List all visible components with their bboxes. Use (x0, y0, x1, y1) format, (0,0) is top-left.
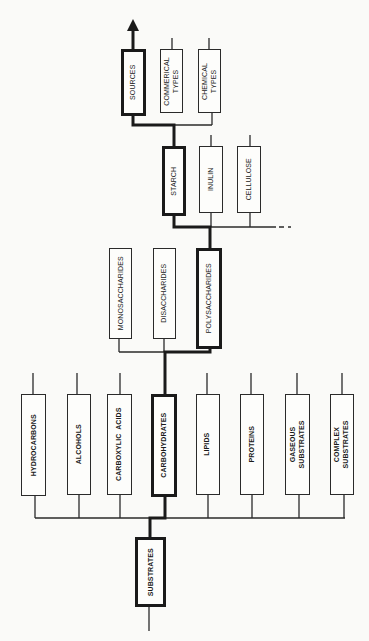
node-label: COMMERICAL TYPES (163, 57, 180, 105)
node-alcohols: ALCOHOLS (67, 394, 91, 495)
node-label: MONOSACCHARIDES (116, 257, 125, 331)
node-label: GASEOUS SUBSTRATES (289, 421, 306, 469)
node-substrates: SUBSTRATES (135, 537, 166, 607)
node-label: STARCH (170, 167, 179, 196)
node-disaccharides: DISACCHARIDES (153, 248, 176, 339)
node-label: HYDROCARBONS (29, 414, 38, 476)
node-sources: SOURCES (121, 49, 146, 116)
node-cellulose: CELLULOSE (237, 146, 261, 213)
node-lipids: LIPIDS (196, 394, 220, 495)
node-label: CARBOHYDRATES (160, 413, 169, 478)
node-label: CELLULOSE (245, 158, 254, 200)
arrow-up-icon (127, 19, 139, 31)
node-label: DISACCHARIDES (160, 264, 169, 323)
node-label: COMPLEX SUBSTRATES (334, 421, 351, 469)
node-proteins: PROTEINS (240, 394, 264, 495)
node-label: POLYSACCHARIDES (205, 263, 214, 333)
node-label: SUBSTRATES (146, 548, 155, 596)
node-label: PROTEINS (248, 426, 257, 463)
node-label: CHEMICAL TYPES (201, 63, 218, 100)
node-carboxylic-acids: CARBOXYLIC ACIDS (107, 394, 132, 495)
node-complex-substrates: COMPLEX SUBSTRATES (330, 394, 354, 495)
node-label: SOURCES (129, 65, 138, 100)
node-starch: STARCH (162, 146, 186, 216)
connector-lines (0, 0, 369, 641)
node-label: INULIN (207, 168, 216, 192)
node-label: LIPIDS (204, 433, 213, 456)
node-label: CARBOXYLIC ACIDS (115, 408, 124, 481)
node-chemical-types: CHEMICAL TYPES (198, 49, 221, 113)
node-inulin: INULIN (199, 146, 223, 213)
node-carbohydrates: CARBOHYDRATES (151, 394, 177, 497)
node-label: ALCOHOLS (75, 424, 84, 464)
node-gaseous-substrates: GASEOUS SUBSTRATES (285, 394, 310, 495)
node-monosaccharides: MONOSACCHARIDES (109, 248, 132, 339)
node-hydrocarbons: HYDROCARBONS (21, 394, 46, 496)
node-commercial-types: COMMERICAL TYPES (160, 49, 183, 113)
node-polysaccharides: POLYSACCHARIDES (196, 248, 222, 349)
